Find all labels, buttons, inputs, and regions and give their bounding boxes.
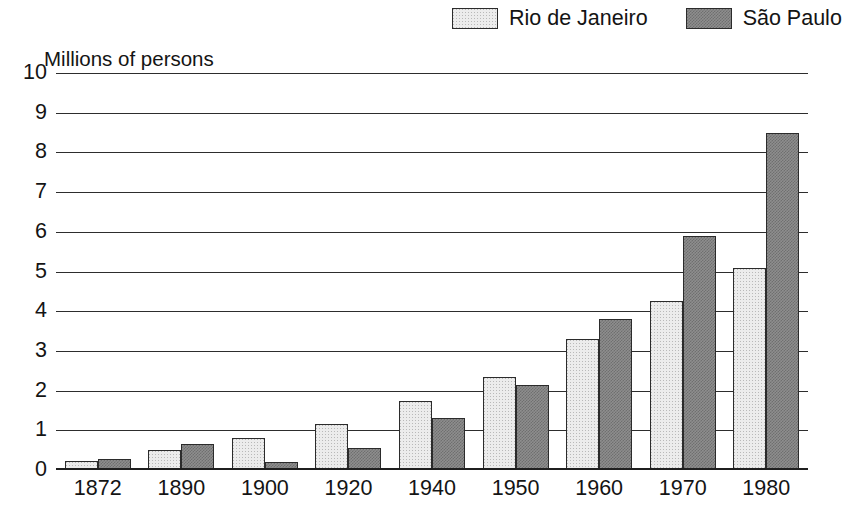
legend-label-rio-de-janeiro: Rio de Janeiro	[509, 8, 648, 30]
legend-item-sao-paulo: São Paulo	[686, 8, 842, 30]
bar-1950-series-1	[483, 377, 516, 470]
bar-group-1950	[474, 73, 558, 470]
bar-1960-series-1	[566, 339, 599, 470]
bar-group-1900	[223, 73, 307, 470]
y-tick-label: 10	[23, 62, 47, 84]
legend-swatch-rio-de-janeiro	[452, 8, 498, 29]
bar-1940-series-2	[432, 418, 465, 470]
x-tick-label-1920: 1920	[307, 478, 391, 500]
bar-group-1940	[390, 73, 474, 470]
y-tick-label: 4	[35, 300, 47, 322]
x-tick-label-1940: 1940	[390, 478, 474, 500]
bar-1980-series-1	[733, 268, 766, 470]
y-tick-label: 9	[35, 102, 47, 124]
x-tick-label-1890: 1890	[140, 478, 224, 500]
y-tick-label: 6	[35, 221, 47, 243]
y-tick-label: 5	[35, 261, 47, 283]
legend-label-sao-paulo: São Paulo	[743, 8, 842, 30]
bar-1950-series-2	[516, 385, 549, 470]
x-tick-label-1970: 1970	[641, 478, 725, 500]
bar-groups	[56, 73, 808, 470]
y-tick-label: 8	[35, 142, 47, 164]
x-axis-baseline	[56, 468, 808, 470]
bar-1970-series-1	[650, 301, 683, 470]
chart-legend: Rio de Janeiro São Paulo	[452, 8, 842, 30]
bar-1940-series-1	[399, 401, 432, 470]
x-tick-label-1960: 1960	[557, 478, 641, 500]
y-tick-label: 3	[35, 340, 47, 362]
bar-group-1970	[641, 73, 725, 470]
bar-1890-series-2	[181, 444, 214, 470]
bar-1900-series-1	[232, 438, 265, 470]
y-tick-label: 2	[35, 380, 47, 402]
legend-swatch-sao-paulo	[686, 8, 732, 29]
bar-group-1980	[725, 73, 809, 470]
x-tick-label-1900: 1900	[223, 478, 307, 500]
bar-1920-series-2	[348, 448, 381, 470]
bar-1970-series-2	[683, 236, 716, 470]
bar-group-1920	[307, 73, 391, 470]
x-tick-label-1872: 1872	[56, 478, 140, 500]
plot-area: 109876543210	[56, 73, 808, 470]
x-tick-label-1950: 1950	[474, 478, 558, 500]
legend-item-rio-de-janeiro: Rio de Janeiro	[452, 8, 648, 30]
bar-1980-series-2	[766, 133, 799, 470]
bar-1920-series-1	[315, 424, 348, 470]
bar-group-1890	[140, 73, 224, 470]
bar-1960-series-2	[599, 319, 632, 470]
x-tick-label-1980: 1980	[725, 478, 809, 500]
y-tick-label: 7	[35, 181, 47, 203]
y-tick-label: 1	[35, 420, 47, 442]
bar-group-1960	[557, 73, 641, 470]
y-tick-label: 0	[35, 459, 47, 481]
y-axis-title: Millions of persons	[44, 49, 214, 70]
bar-group-1872	[56, 73, 140, 470]
x-axis-labels: 187218901900192019401950196019701980	[56, 478, 808, 500]
